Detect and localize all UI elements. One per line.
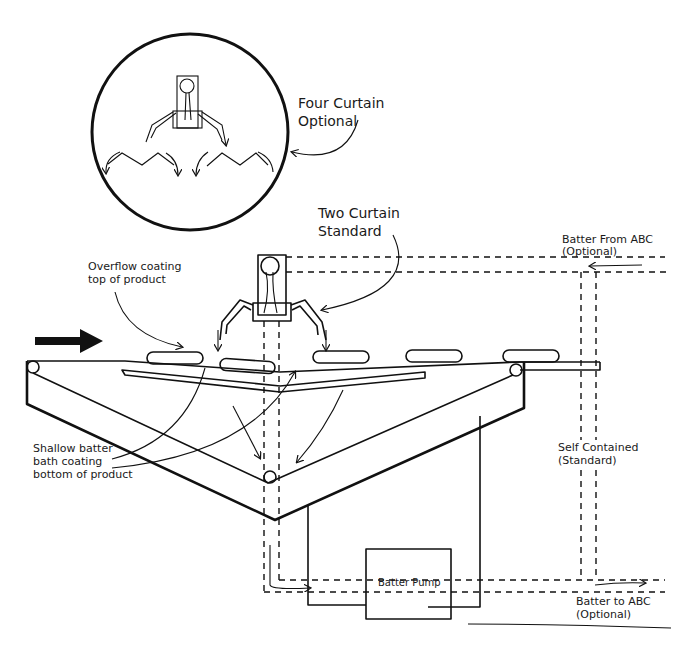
inset-curtain-left [146, 112, 176, 142]
submersion-plate [122, 370, 425, 392]
conveyor [27, 361, 600, 483]
two-curtain-label-2: Standard [318, 223, 382, 239]
self-contained-label-2: (Standard) [558, 454, 617, 467]
four-curtain-label-1: Four Curtain [298, 95, 384, 111]
two-curtain-label-1: Two Curtain [317, 205, 400, 221]
product-4 [406, 350, 462, 362]
product-3 [313, 351, 369, 363]
four-curtain-label-2: Optional [298, 113, 357, 129]
batter-pump: Batter Pump [366, 549, 451, 619]
inset-circle [92, 34, 288, 230]
overflow-label-2: top of product [88, 273, 167, 286]
inset-zigzag-left [108, 153, 174, 165]
to-abc-arrow [595, 583, 645, 585]
overflow-label-1: Overflow coating [88, 260, 181, 273]
inset-roller-icon [180, 79, 194, 93]
from-abc-label-2: (Optional) [562, 245, 617, 258]
from-abc-arrow [590, 265, 642, 266]
flow-direction-arrow-icon [35, 329, 103, 353]
four-curtain-inset [92, 34, 288, 230]
bath-flow-arrow-right [297, 390, 343, 462]
overflow-pointer-arrow [115, 292, 182, 347]
curtain-left [220, 300, 253, 340]
inset-zigzag-right [207, 153, 268, 166]
to-abc-label-1: Batter to ABC [576, 595, 651, 608]
shallow-label-1: Shallow batter [33, 442, 113, 455]
inset-curtain-right [202, 112, 226, 145]
products [147, 350, 559, 374]
head-box [258, 255, 286, 315]
to-abc-label-2: (Optional) [576, 608, 631, 621]
pump-label: Batter Pump [378, 577, 441, 588]
bottom-rule [468, 624, 671, 628]
batter-bath [27, 361, 524, 607]
two-curtain-head [218, 255, 326, 350]
product-5 [503, 350, 559, 362]
shallow-label-2: bath coating [33, 455, 102, 468]
shallow-label-3: bottom of product [33, 468, 133, 481]
self-contained-label-1: Self Contained [558, 441, 638, 454]
curtain-right [291, 300, 326, 340]
batter-applicator-diagram: Four Curtain Optional Two Curtain Standa… [0, 0, 691, 645]
head-roller-icon [261, 257, 279, 275]
product-1 [147, 352, 203, 364]
left-pulley-icon [27, 361, 39, 373]
